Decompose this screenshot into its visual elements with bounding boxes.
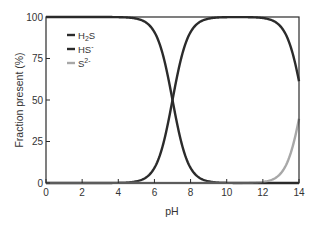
y-tick-label: 0 (37, 178, 43, 189)
legend-label: HS- (78, 43, 94, 55)
x-tick-label: 0 (43, 187, 49, 198)
y-tick-label: 75 (32, 53, 44, 64)
x-axis-title: pH (165, 205, 178, 217)
legend-item-h2s: H2S (67, 30, 95, 43)
x-tick-label: 14 (293, 187, 305, 198)
legend-item-hs: HS- (67, 43, 94, 55)
y-axis-title: Fraction present (%) (13, 52, 25, 147)
x-tick-label: 8 (188, 187, 194, 198)
legend-label: S2- (78, 57, 91, 69)
legend-item-s2: S2- (67, 57, 91, 69)
fraction-vs-ph-chart: 02468101214 0255075100 pH Fraction prese… (0, 0, 317, 228)
x-tick-label: 12 (257, 187, 269, 198)
y-tick-label: 25 (32, 136, 44, 147)
x-tick-label: 6 (152, 187, 158, 198)
legend: H2SHS-S2- (67, 30, 95, 69)
curve-s2 (46, 119, 299, 183)
y-tick-label: 100 (26, 12, 43, 23)
x-tick-label: 4 (116, 187, 122, 198)
x-tick-label: 2 (79, 187, 85, 198)
y-tick-label: 50 (32, 95, 44, 106)
x-tick-label: 10 (221, 187, 233, 198)
legend-label: H2S (78, 30, 95, 43)
